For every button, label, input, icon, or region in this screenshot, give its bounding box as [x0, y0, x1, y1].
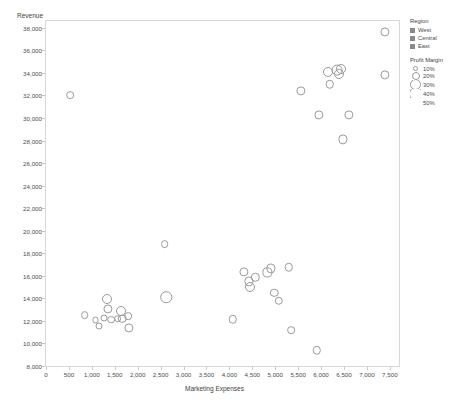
legend-circle-icon [413, 66, 418, 71]
x-axis-title: Marketing Expenses [0, 385, 451, 392]
legend-label: West [418, 26, 431, 34]
legend-item-region[interactable]: West [410, 26, 451, 34]
x-tick-mark [161, 367, 162, 370]
x-tick-mark [46, 367, 47, 370]
x-tick-mark [275, 367, 276, 370]
x-tick-label: 500 [64, 371, 74, 378]
x-tick-mark [115, 367, 116, 370]
legend-label: 30% [423, 82, 435, 88]
legend-label: East [418, 42, 430, 50]
legend-title-region: Region [410, 18, 451, 24]
legend-circle-cell [410, 89, 421, 98]
x-tick-mark [92, 367, 93, 370]
legend-circle-cell [410, 98, 421, 107]
x-tick-mark [69, 367, 70, 370]
legend-swatch-icon [410, 44, 415, 49]
legend-circle-cell [410, 80, 421, 89]
x-tick-label: 6,500 [336, 371, 351, 378]
legend-item-profit-margin[interactable]: 40% [410, 89, 451, 98]
x-tick-label: 2,000 [130, 371, 145, 378]
x-tick-label: 5,000 [267, 371, 282, 378]
x-tick-label: 6,000 [313, 371, 328, 378]
legend-item-region[interactable]: Central [410, 34, 451, 42]
x-tick-label: 4,500 [245, 371, 260, 378]
legend-label: 50% [423, 100, 435, 106]
x-axis-title-text: Marketing Expenses [185, 385, 244, 392]
x-tick-label: 3,500 [199, 371, 214, 378]
x-tick-mark [206, 367, 207, 370]
x-tick-mark [252, 367, 253, 370]
scatter-chart: Revenue 8,00010,00012,00014,00016,00018,… [0, 0, 451, 404]
legend-circle-icon [412, 72, 420, 80]
x-tick-label: 0 [44, 371, 47, 378]
legend-circle-cell [410, 72, 421, 80]
x-tick-label: 5,500 [290, 371, 305, 378]
legend-title-profit-margin: Profit Margin [410, 57, 451, 63]
legend-label: 20% [423, 73, 435, 79]
legend-circle-icon [410, 80, 421, 89]
legend-item-profit-margin[interactable]: 20% [410, 72, 451, 80]
legend-region-rows: WestCentralEast [410, 26, 451, 50]
legend-swatch-icon [410, 28, 415, 33]
chart-legend: Region WestCentralEast Profit Margin 10%… [410, 18, 451, 107]
x-tick-label: 4,000 [222, 371, 237, 378]
x-tick-mark [298, 367, 299, 370]
legend-circle-icon [410, 98, 421, 107]
x-tick-label: 1,500 [107, 371, 122, 378]
x-tick-mark [138, 367, 139, 370]
x-tick-label: 7,000 [359, 371, 374, 378]
legend-label: 40% [423, 91, 435, 97]
x-tick-mark [344, 367, 345, 370]
x-tick-mark [390, 367, 391, 370]
legend-circle-cell [410, 65, 421, 72]
x-tick-mark [184, 367, 185, 370]
legend-circle-icon [410, 89, 421, 98]
x-tick-mark [367, 367, 368, 370]
x-tick-label: 3,000 [176, 371, 191, 378]
x-tick-mark [229, 367, 230, 370]
x-axis-ticks: 05001,0001,5002,0002,5003,0003,5004,0004… [0, 0, 451, 404]
x-tick-label: 2,500 [153, 371, 168, 378]
legend-group-region: Region WestCentralEast [410, 18, 451, 50]
legend-size-rows: 10%20%30%40%50% [410, 65, 451, 107]
legend-item-region[interactable]: East [410, 42, 451, 50]
x-tick-mark [321, 367, 322, 370]
legend-label: Central [418, 34, 437, 42]
x-tick-label: 1,000 [84, 371, 99, 378]
x-tick-label: 7,500 [382, 371, 397, 378]
legend-item-profit-margin[interactable]: 50% [410, 98, 451, 107]
legend-label: 10% [423, 66, 435, 72]
legend-swatch-icon [410, 36, 415, 41]
legend-item-profit-margin[interactable]: 30% [410, 80, 451, 89]
legend-group-profit-margin: Profit Margin 10%20%30%40%50% [410, 57, 451, 107]
legend-item-profit-margin[interactable]: 10% [410, 65, 451, 72]
